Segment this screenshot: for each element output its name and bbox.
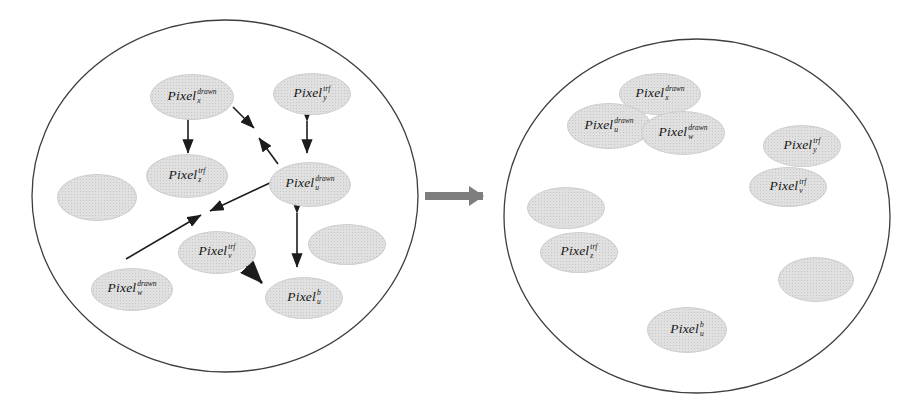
- label-subscript: x: [665, 94, 668, 102]
- label-superscript: trf: [813, 137, 820, 145]
- node-blank: [57, 174, 137, 221]
- node-pixel-w-drawn: Pixeldrawnw: [641, 111, 725, 155]
- node-label: Pixelbu: [670, 322, 703, 338]
- label-subscript: y: [323, 94, 326, 102]
- label-subscript: u: [700, 330, 704, 338]
- node-pixel-u-drawn: Pixeldrawnu: [567, 103, 651, 149]
- label-base: Pixel: [561, 243, 590, 258]
- label-scripts: drawnx: [665, 85, 684, 101]
- label-scripts: drawnu: [614, 117, 633, 133]
- label-base: Pixel: [294, 85, 323, 100]
- node-label: Pixeltrfy: [294, 86, 331, 102]
- node-pixel-u-drawn: Pixeldrawnu: [269, 162, 351, 207]
- label-superscript: drawn: [665, 85, 684, 93]
- node-pixel-y-trf: Pixeltrfy: [273, 73, 351, 115]
- node-pixel-u-b: Pixelbu: [265, 277, 343, 319]
- node-pixel-w-drawn: Pixeldrawnw: [91, 268, 173, 311]
- label-scripts: trfy: [323, 85, 330, 101]
- label-subscript: w: [688, 133, 693, 141]
- node-pixel-x-drawn: Pixeldrawnx: [150, 74, 234, 120]
- label-scripts: drawnx: [197, 88, 216, 104]
- set-boundaries-layer: [32, 20, 890, 393]
- label-scripts: drawnw: [688, 124, 707, 140]
- label-scripts: bu: [700, 321, 704, 337]
- label-superscript: drawn: [197, 88, 216, 96]
- node-label: Pixeltrfv: [199, 244, 236, 260]
- label-subscript: u: [315, 184, 319, 192]
- label-superscript: trf: [323, 85, 330, 93]
- node-pixel-v-trf: Pixeltrfv: [749, 167, 827, 207]
- label-scripts: drawnu: [315, 175, 334, 191]
- label-scripts: trfz: [590, 243, 597, 259]
- label-base: Pixel: [108, 280, 137, 295]
- label-base: Pixel: [670, 321, 699, 336]
- label-subscript: y: [813, 146, 816, 154]
- label-subscript: v: [228, 252, 231, 260]
- node-pixel-z-trf: Pixeltrfz: [540, 232, 618, 273]
- node-pixel-y-trf: Pixeltrfy: [763, 125, 841, 167]
- label-superscript: drawn: [315, 175, 334, 183]
- node-label: Pixeldrawnw: [659, 125, 708, 141]
- node-label: Pixeltrfv: [770, 179, 807, 195]
- label-superscript: trf: [228, 243, 235, 251]
- label-subscript: z: [590, 252, 593, 260]
- figure-canvas: PixeldrawnxPixeltrfyPixeltrfzPixeldrawnu…: [0, 0, 917, 396]
- label-subscript: x: [197, 97, 200, 105]
- label-base: Pixel: [286, 175, 315, 190]
- label-scripts: trfv: [799, 178, 806, 194]
- node-label: Pixeldrawnu: [585, 118, 634, 134]
- node-blank: [308, 224, 386, 265]
- label-subscript: z: [198, 176, 201, 184]
- label-scripts: trfv: [228, 243, 235, 259]
- node-pixel-u-b: Pixelbu: [647, 307, 727, 353]
- node-pixel-v-trf: Pixeltrfv: [178, 231, 256, 274]
- label-scripts: trfy: [813, 137, 820, 153]
- label-superscript: trf: [799, 178, 806, 186]
- label-superscript: b: [700, 321, 704, 329]
- label-base: Pixel: [659, 124, 688, 139]
- label-base: Pixel: [784, 137, 813, 152]
- node-label: Pixelbu: [287, 290, 320, 306]
- label-superscript: trf: [590, 243, 597, 251]
- node-label: Pixeltrfz: [561, 244, 598, 260]
- label-base: Pixel: [169, 167, 198, 182]
- node-label: Pixeldrawnx: [168, 89, 217, 105]
- label-base: Pixel: [585, 117, 614, 132]
- label-base: Pixel: [168, 88, 197, 103]
- label-subscript: v: [799, 187, 802, 195]
- label-scripts: drawnw: [137, 280, 156, 296]
- label-superscript: b: [317, 289, 321, 297]
- label-superscript: trf: [198, 167, 205, 175]
- label-scripts: bu: [317, 289, 321, 305]
- label-base: Pixel: [199, 243, 228, 258]
- label-base: Pixel: [770, 178, 799, 193]
- node-blank: [527, 187, 605, 229]
- node-label: Pixeltrfz: [169, 168, 206, 184]
- node-blank: [778, 257, 854, 302]
- label-base: Pixel: [636, 85, 665, 100]
- node-label: Pixeldrawnu: [286, 176, 335, 192]
- label-superscript: drawn: [688, 124, 707, 132]
- label-superscript: drawn: [614, 117, 633, 125]
- node-pixel-z-trf: Pixeltrfz: [146, 154, 228, 198]
- label-base: Pixel: [287, 289, 316, 304]
- label-subscript: w: [137, 289, 142, 297]
- node-label: Pixeldrawnx: [636, 86, 685, 102]
- label-subscript: u: [614, 126, 618, 134]
- node-label: Pixeldrawnw: [108, 281, 157, 297]
- label-scripts: trfz: [198, 167, 205, 183]
- node-label: Pixeltrfy: [784, 138, 821, 154]
- label-superscript: drawn: [137, 280, 156, 288]
- label-subscript: u: [317, 298, 321, 306]
